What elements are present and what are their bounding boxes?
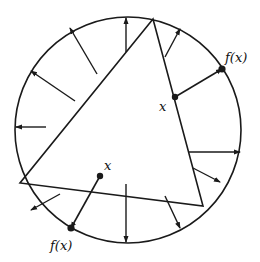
highlighted-maps [67,65,225,231]
arrow-icon [31,71,75,101]
map-arrow-icon [71,176,100,228]
diagram-canvas: x f(x) x f(x) [0,0,260,262]
label-x-right: x [159,99,167,114]
radial-arrows [16,18,240,242]
triangle-outline [20,19,203,206]
arrow-icon [165,29,180,57]
triangle [20,19,203,206]
point-fx-dot [67,224,74,231]
map-arrow-icon [175,69,222,97]
label-x-bottom: x [104,158,112,173]
label-fx-right: f(x) [224,50,247,65]
point-fx-dot [218,65,225,72]
label-fx-bottom: f(x) [49,238,72,253]
point-x-dot [97,173,103,179]
arrow-icon [165,196,180,228]
arrow-icon [70,28,97,74]
arrow-icon [193,168,220,182]
point-x-dot [172,94,178,100]
retraction-diagram: x f(x) x f(x) [0,0,260,262]
